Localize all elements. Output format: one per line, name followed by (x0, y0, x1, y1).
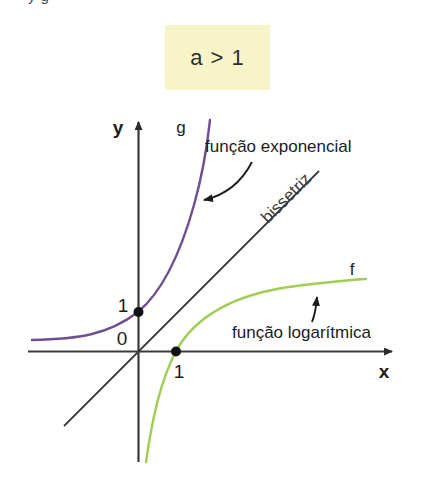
exponential-logarithmic-figure: y g a > 1 y x 0 1 (0, 0, 437, 480)
logarithmic-annotation: função logarítmica (232, 323, 371, 342)
point-x-intercept (171, 347, 181, 357)
x-tick-label-1: 1 (174, 361, 185, 382)
logarithmic-annotation-arrow (312, 297, 317, 322)
x-axis-label: x (379, 361, 390, 382)
coordinate-plot: y x 0 1 1 g f bissetriz função exponenci… (0, 0, 437, 480)
exponential-annotation: função exponencial (205, 137, 352, 156)
origin-label: 0 (117, 328, 128, 349)
exponential-annotation-arrow (204, 162, 252, 200)
bisector-label: bissetriz (257, 169, 315, 227)
y-tick-label-1: 1 (118, 295, 129, 316)
point-y-intercept (134, 307, 144, 317)
y-axis-label: y (113, 117, 124, 138)
logarithmic-curve-name: f (350, 260, 355, 279)
exponential-curve-name: g (176, 118, 185, 137)
